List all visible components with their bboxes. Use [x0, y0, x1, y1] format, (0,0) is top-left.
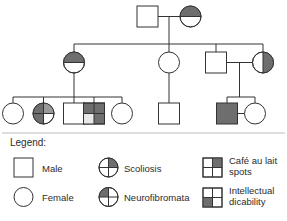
individual-II-2 — [159, 52, 180, 73]
legend-symbol-scoliosis — [99, 158, 118, 177]
legend-label-intellectual-disability-line1: Intellectual — [229, 185, 274, 196]
individual-III-2 — [33, 103, 54, 124]
individual-III-8 — [245, 103, 266, 124]
individual-I-1 — [137, 6, 158, 27]
individual-II-1 — [64, 52, 85, 73]
legend-symbol-cafe-au-lait — [203, 158, 222, 177]
legend-symbol-male — [14, 158, 33, 177]
legend-label-scoliosis: Scoliosis — [124, 163, 162, 174]
legend-title: Legend: — [10, 137, 46, 148]
legend-label-male: Male — [42, 163, 63, 174]
legend-label-female: Female — [42, 192, 74, 203]
legend-label-intellectual-disability-line2: dicability — [229, 196, 266, 207]
individual-II-3 — [206, 52, 227, 73]
individual-III-4 — [84, 103, 105, 124]
legend-label-cafe-au-lait-line2: spots — [229, 166, 252, 177]
legend-symbol-female — [14, 188, 33, 207]
individual-III-1 — [3, 103, 24, 124]
individual-I-2 — [180, 6, 201, 27]
legend-label-neurofibromata: Neurofibromata — [124, 192, 190, 203]
legend: Legend: Male Female Scoliosis Neurof — [10, 137, 277, 207]
legend-label-cafe-au-lait-line1: Café au lait — [229, 155, 277, 166]
legend-symbol-neurofibromata — [99, 188, 118, 207]
individual-II-4 — [253, 52, 274, 73]
individual-III-5 — [112, 103, 133, 124]
individual-III-3 — [64, 103, 85, 124]
individual-III-7 — [217, 103, 238, 124]
pedigree-chart: Legend: Male Female Scoliosis Neurof — [0, 0, 287, 221]
legend-symbol-intellectual-disability — [203, 188, 222, 207]
individual-III-6 — [159, 103, 180, 124]
